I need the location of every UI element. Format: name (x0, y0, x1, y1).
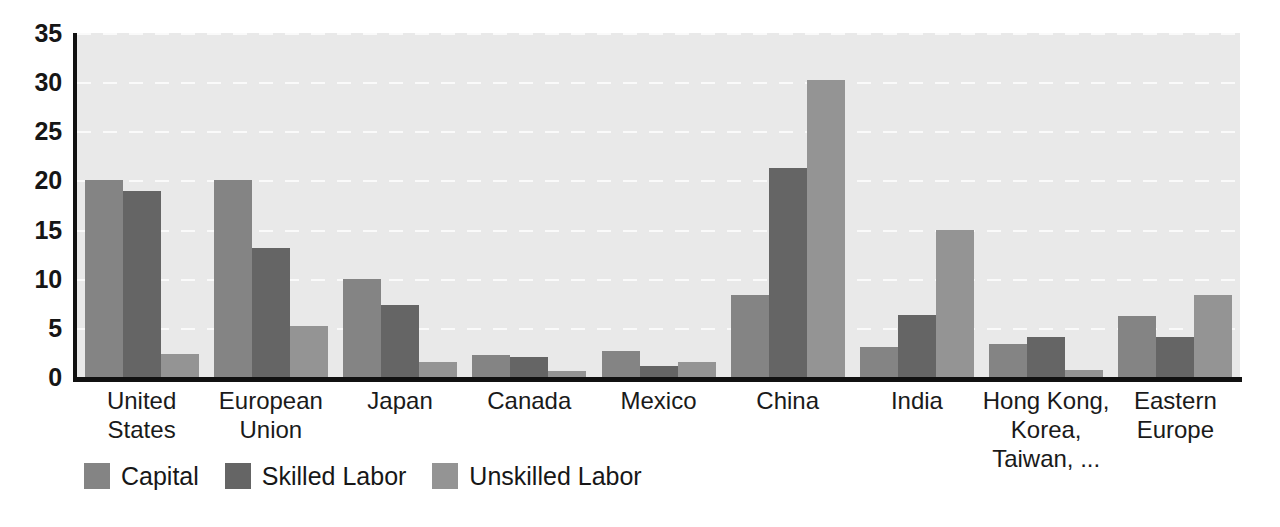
bar (807, 80, 845, 377)
y-tick-label: 5 (4, 315, 62, 340)
bar (123, 191, 161, 377)
bar (1065, 370, 1103, 377)
bars-layer (77, 33, 1240, 377)
legend-item: Unskilled Labor (432, 463, 641, 489)
y-tick-label: 30 (4, 70, 62, 95)
x-axis-category-labels: United StatesEuropean UnionJapanCanadaMe… (77, 386, 1240, 472)
x-axis-label: Eastern Europe (1075, 386, 1275, 444)
y-tick-label: 10 (4, 266, 62, 291)
legend-label: Unskilled Labor (469, 464, 641, 489)
x-axis-line (73, 377, 1242, 382)
legend-swatch-icon (84, 463, 110, 489)
bar (290, 326, 328, 377)
bar (1194, 295, 1232, 377)
bar (769, 168, 807, 377)
y-tick-label: 15 (4, 217, 62, 242)
bar (678, 362, 716, 377)
legend-swatch-icon (225, 463, 251, 489)
bar (898, 315, 936, 377)
bar (640, 366, 678, 377)
bar (472, 355, 510, 377)
y-tick-label: 25 (4, 119, 62, 144)
bar (1027, 337, 1065, 377)
bar (860, 347, 898, 377)
bar (602, 351, 640, 377)
legend: CapitalSkilled LaborUnskilled Labor (84, 463, 642, 489)
legend-item: Capital (84, 463, 199, 489)
bar (214, 180, 252, 377)
bar (252, 248, 290, 377)
plot-area (77, 33, 1240, 377)
bar (1118, 316, 1156, 377)
y-axis: 05101520253035 (0, 0, 62, 527)
y-tick-label: 35 (4, 21, 62, 46)
bar-chart: 05101520253035 United StatesEuropean Uni… (0, 0, 1280, 527)
bar (989, 344, 1027, 377)
legend-label: Capital (121, 464, 199, 489)
legend-label: Skilled Labor (262, 464, 407, 489)
bar (419, 362, 457, 377)
bar (510, 357, 548, 377)
bar (936, 230, 974, 377)
legend-item: Skilled Labor (225, 463, 407, 489)
bar (731, 295, 769, 377)
y-tick-label: 20 (4, 168, 62, 193)
bar (548, 371, 586, 377)
legend-swatch-icon (432, 463, 458, 489)
bar (381, 305, 419, 377)
bar (161, 354, 199, 377)
bar (1156, 337, 1194, 377)
bar (343, 279, 381, 377)
bar (85, 180, 123, 377)
